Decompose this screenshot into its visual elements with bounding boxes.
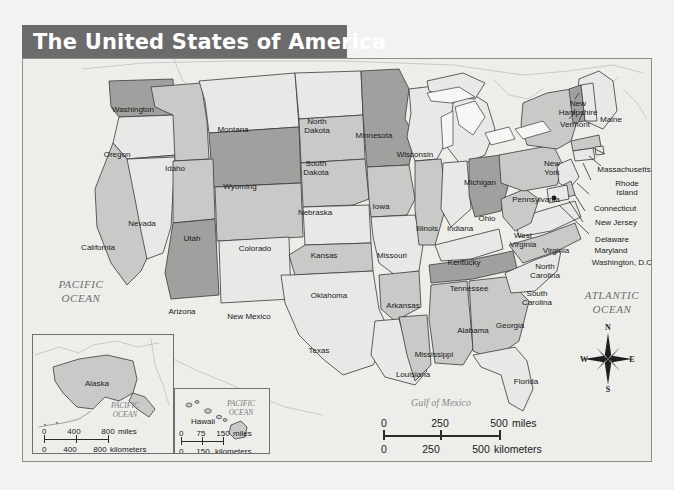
state-kansas — [303, 205, 371, 245]
hawaii-inset: PACIFIC OCEAN Hawaii 0 75 150 miles 0 15… — [174, 388, 270, 454]
scale-main-km-unit: kilometers — [494, 443, 542, 455]
state-wyoming — [209, 127, 301, 187]
state-montana — [199, 73, 299, 133]
alaska-inset: Alaska PACIFIC OCEAN 0 400 800 miles 0 4… — [32, 334, 174, 454]
dc-marker — [552, 196, 557, 201]
state-south-dakota — [299, 115, 365, 163]
page-title: The United States of America — [22, 30, 386, 54]
state-indiana — [441, 161, 471, 227]
alaska-miles-tick-1: 400 — [67, 427, 80, 436]
scale-main-miles-tick-0: 0 — [381, 417, 387, 429]
state-oregon — [113, 115, 177, 159]
hawaii-km-tick-0: 0 — [179, 447, 183, 454]
alaska-km-tick-0: 0 — [42, 445, 46, 454]
state-arkansas — [379, 271, 421, 321]
alaska-miles-unit: miles — [118, 427, 137, 436]
state-arizona — [165, 219, 219, 299]
hawaii-miles-tick-1: 75 — [197, 429, 206, 438]
state-florida — [473, 347, 533, 411]
alaska-inset-title: Alaska — [85, 379, 109, 388]
scale-main-miles-unit: miles — [512, 417, 537, 429]
compass-rose: N E S W — [579, 321, 637, 393]
alaska-inset-ocean-label: PACIFIC OCEAN — [111, 401, 139, 419]
hawaii-inset-ocean-label: PACIFIC OCEAN — [227, 399, 255, 417]
compass-west-label: W — [580, 355, 588, 364]
scale-main-miles-tick-1: 250 — [431, 417, 449, 429]
alaska-km-tick-1: 400 — [63, 445, 76, 454]
state-colorado — [215, 183, 303, 241]
map-title-banner: The United States of America — [22, 25, 347, 58]
hawaii-miles-unit: miles — [233, 429, 252, 438]
hawaii-km-unit: kilometers — [215, 447, 251, 454]
state-iowa — [367, 165, 415, 217]
scale-main-km-tick-1: 250 — [422, 443, 440, 455]
scale-main-miles-tick-2: 500 — [490, 417, 508, 429]
state-alabama — [429, 281, 473, 365]
state-oklahoma — [289, 243, 373, 275]
state-new-mexico — [219, 237, 291, 303]
hawaii-km-tick-1: 150 — [196, 447, 209, 454]
state-missouri — [371, 215, 423, 275]
scale-main-km-tick-0: 0 — [381, 443, 387, 455]
state-nebraska — [301, 159, 369, 207]
map-page: The United States of America .st{stroke:… — [0, 0, 674, 490]
alaska-km-unit: kilometers — [110, 445, 146, 454]
state-maryland — [547, 185, 569, 203]
scale-main-km-tick-2: 500 — [472, 443, 490, 455]
state-pennsylvania — [499, 145, 563, 191]
state-minnesota — [361, 69, 415, 167]
state-utah — [173, 159, 215, 223]
compass-south-label: S — [606, 385, 610, 394]
state-rhode-island — [595, 146, 604, 155]
state-north-dakota — [295, 71, 363, 119]
compass-north-label: N — [605, 323, 611, 332]
alaska-km-tick-2: 800 — [93, 445, 106, 454]
hawaii-inset-title: Hawaii — [191, 417, 215, 426]
map-frame: .st{stroke:#3a3a3a;stroke-width:0.8;stro… — [22, 58, 652, 462]
compass-east-label: E — [629, 355, 634, 364]
